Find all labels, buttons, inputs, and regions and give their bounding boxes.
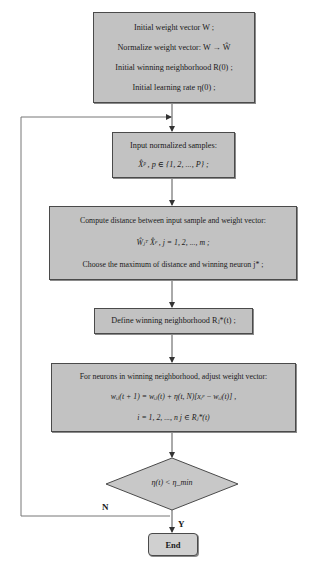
init-line-learning-rate: Initial learning rate η(0) ; — [133, 83, 216, 92]
compute-box: Compute distance between input sample an… — [49, 206, 297, 280]
compute-line-title: Compute distance between input sample an… — [80, 217, 266, 226]
init-line-normalize: Normalize weight vector: W → Ŵ — [117, 43, 230, 52]
input-line-title: Input normalized samples: — [130, 141, 217, 150]
decision-text: η(t) < η_min — [132, 478, 212, 487]
init-box: Initial weight vector W ; Normalize weig… — [93, 12, 255, 103]
yes-label: Y — [178, 519, 185, 529]
adjust-line-title: For neurons in winning neighborhood, adj… — [80, 373, 268, 382]
define-line: Define winning neighborhood Rⱼ*(t) ; — [111, 316, 236, 325]
input-line-formula: X̂ᵖ , p ∈ {1, 2, ..., P} ; — [138, 160, 209, 169]
end-terminal: End — [148, 533, 198, 556]
input-box: Input normalized samples: X̂ᵖ , p ∈ {1, … — [112, 132, 235, 178]
no-label: N — [102, 502, 109, 512]
define-box: Define winning neighborhood Rⱼ*(t) ; — [94, 308, 253, 334]
adjust-line-formula: wᵢⱼ(t + 1) = wᵢⱼ(t) + η(t, N)[xᵢᵖ − wᵢⱼ(… — [111, 393, 236, 402]
compute-line-formula: Ŵⱼᵀ X̂ᵖ , j = 1, 2, ..., m ; — [136, 239, 209, 248]
compute-line-choose: Choose the maximum of distance and winni… — [83, 261, 264, 270]
init-line-weight: Initial weight vector W ; — [134, 23, 214, 32]
init-line-neighborhood: Initial winning neighborhood R(0) ; — [115, 63, 232, 72]
adjust-box: For neurons in winning neighborhood, adj… — [51, 363, 296, 432]
adjust-line-indices: i = 1, 2, ..., n j ∈ Rⱼ*(t) — [137, 414, 209, 423]
